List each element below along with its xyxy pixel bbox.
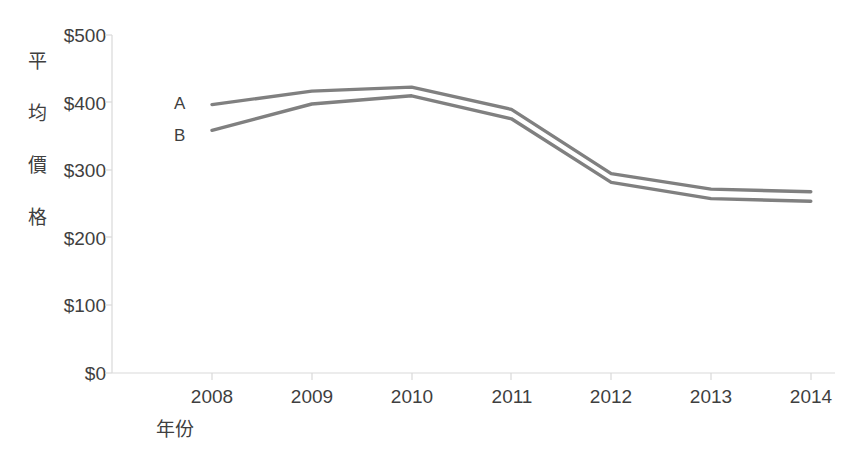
series-line-b	[212, 96, 811, 202]
plot-area	[0, 0, 847, 460]
line-chart: 平 均 價 格 $500 $400 $300 $200 $100 $0 2008…	[0, 0, 847, 460]
x-axis-ticks	[212, 373, 811, 380]
series-line-a	[212, 87, 811, 192]
y-axis-ticks	[105, 35, 112, 373]
